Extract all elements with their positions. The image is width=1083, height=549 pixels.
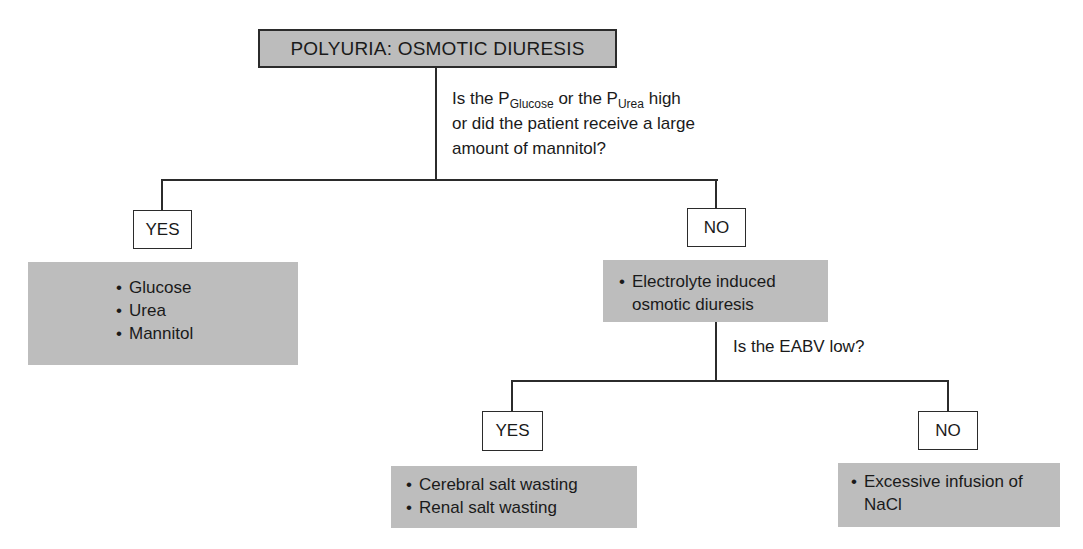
branch1-yes-result-box: Glucose Urea Mannitol <box>28 262 298 365</box>
question1-line2: or did the patient receive a large <box>452 111 752 136</box>
branch2-no-label-box: NO <box>918 411 978 450</box>
branch2-yes-label: YES <box>495 421 529 441</box>
branch2-yes-label-box: YES <box>482 411 543 451</box>
branch2-no-result-box: Excessive infusion of NaCl <box>838 463 1060 527</box>
branch1-no-result-box: Electrolyte induced osmotic diuresis <box>603 260 828 322</box>
question-glucose-urea-mannitol: Is the PGlucose or the PUrea high or did… <box>452 86 752 161</box>
connector-branch1-no <box>715 179 717 209</box>
connector-branch1-yes <box>161 179 163 210</box>
diagram-title-box: POLYURIA: OSMOTIC DIURESIS <box>258 29 617 68</box>
connector-branch1-horizontal <box>161 179 718 181</box>
question-eabv-low: Is the EABV low? <box>733 334 864 359</box>
connector-trunk <box>435 67 437 181</box>
diagram-title: POLYURIA: OSMOTIC DIURESIS <box>290 38 584 60</box>
list-item: Excessive infusion of NaCl <box>851 470 1049 516</box>
branch2-no-label: NO <box>935 421 961 441</box>
branch1-yes-label: YES <box>145 220 179 240</box>
subscript-glucose: Glucose <box>510 97 554 111</box>
branch1-no-list: Electrolyte induced osmotic diuresis <box>619 270 828 316</box>
branch2-yes-list: Cerebral salt wasting Renal salt wasting <box>406 473 637 519</box>
list-item: Electrolyte induced osmotic diuresis <box>619 270 802 316</box>
list-item: Glucose <box>116 276 298 299</box>
connector-trunk2 <box>715 322 717 382</box>
list-item: Renal salt wasting <box>406 496 637 519</box>
question1-line3: amount of mannitol? <box>452 136 752 161</box>
branch1-yes-list: Glucose Urea Mannitol <box>116 276 298 345</box>
subscript-urea: Urea <box>618 97 644 111</box>
connector-branch2-no <box>947 380 949 411</box>
branch1-no-label-box: NO <box>687 208 746 247</box>
list-item: Urea <box>116 299 298 322</box>
connector-branch2-horizontal <box>511 380 949 382</box>
connector-branch2-yes <box>511 380 513 411</box>
branch2-no-list: Excessive infusion of NaCl <box>851 470 1060 516</box>
branch1-yes-label-box: YES <box>133 210 192 249</box>
branch2-yes-result-box: Cerebral salt wasting Renal salt wasting <box>391 466 637 528</box>
list-item: Cerebral salt wasting <box>406 473 637 496</box>
branch1-no-label: NO <box>704 218 730 238</box>
question1-line1: Is the PGlucose or the PUrea high <box>452 86 752 111</box>
list-item: Mannitol <box>116 322 298 345</box>
